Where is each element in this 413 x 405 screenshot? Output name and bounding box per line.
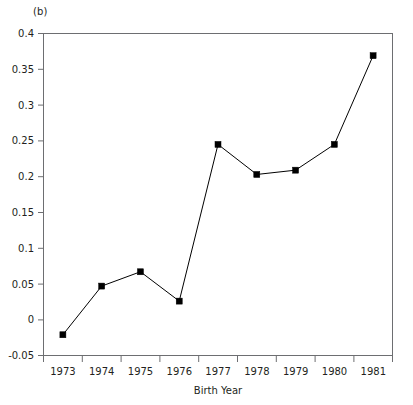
data-point [331,141,337,147]
y-tick-label: 0.05 [12,279,34,290]
x-axis: 1973 1974 1975 1976 1977 1978 1979 1980 … [44,356,393,378]
data-point [176,298,182,304]
x-tick-label: 1976 [167,366,192,377]
series-markers [60,53,376,338]
figure-container: (b) 0.4 0.35 0.3 0.25 0.2 0.15 0.1 0.05 … [0,0,413,405]
x-tick-label: 1981 [361,366,386,377]
data-point [60,332,66,338]
data-point [137,269,143,275]
y-tick-label: 0.15 [12,207,34,218]
x-tick-label: 1974 [89,366,114,377]
data-point [99,283,105,289]
data-point [370,53,376,59]
data-point [215,141,221,147]
series-line [63,56,373,335]
y-tick-label: 0.4 [18,28,34,39]
x-axis-title: Birth Year [194,385,243,396]
x-tick-label: 1977 [205,366,230,377]
plot-frame [44,34,393,356]
x-tick-label: 1973 [50,366,75,377]
y-tick-label: 0 [28,314,34,325]
y-tick-label: 0.2 [18,171,34,182]
line-chart: 0.4 0.35 0.3 0.25 0.2 0.15 0.1 0.05 0 -0… [0,0,413,405]
data-point [293,167,299,173]
y-tick-label: 0.3 [18,100,34,111]
x-tick-label: 1978 [244,366,269,377]
y-axis: 0.4 0.35 0.3 0.25 0.2 0.15 0.1 0.05 0 -0… [8,28,43,361]
x-tick-label: 1975 [128,366,153,377]
y-tick-label: 0.1 [18,243,34,254]
x-tick-label: 1980 [322,366,347,377]
y-tick-label: -0.05 [8,350,34,361]
y-tick-label: 0.35 [12,64,34,75]
y-tick-label: 0.25 [12,135,34,146]
x-tick-label: 1979 [283,366,308,377]
data-point [254,171,260,177]
